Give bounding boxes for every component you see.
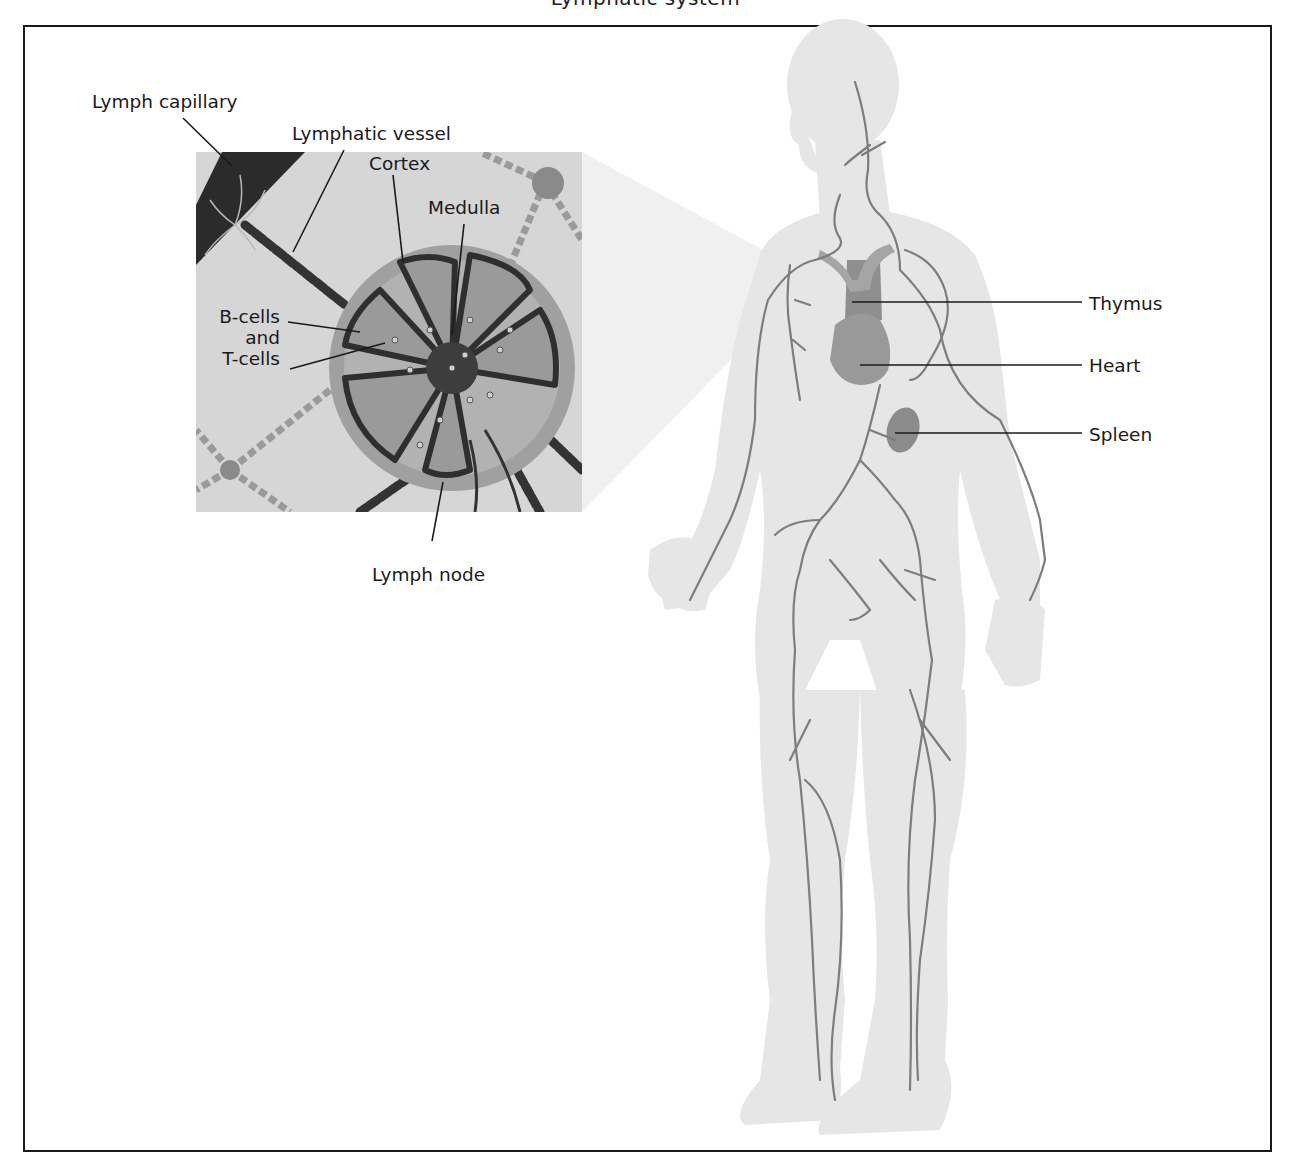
lymphatic-system-illustration (0, 0, 1291, 1165)
label-b-cells-line1: B-cells (208, 306, 280, 327)
label-lymphatic-vessel: Lymphatic vessel (292, 123, 451, 144)
distant-node-icon (532, 167, 564, 199)
label-spleen: Spleen (1089, 424, 1152, 445)
label-b-cells-line2: and (208, 327, 280, 348)
heart-organ (830, 314, 890, 385)
label-lymph-capillary: Lymph capillary (92, 91, 238, 112)
label-thymus: Thymus (1089, 293, 1162, 314)
label-medulla: Medulla (428, 197, 500, 218)
label-heart: Heart (1089, 355, 1141, 376)
label-lymph-node: Lymph node (372, 564, 485, 585)
distant-node-icon (220, 460, 240, 480)
label-b-cells: B-cells and T-cells (208, 306, 280, 369)
body-silhouette (648, 19, 1045, 1135)
label-cortex: Cortex (369, 153, 430, 174)
label-b-cells-line3: T-cells (208, 348, 280, 369)
